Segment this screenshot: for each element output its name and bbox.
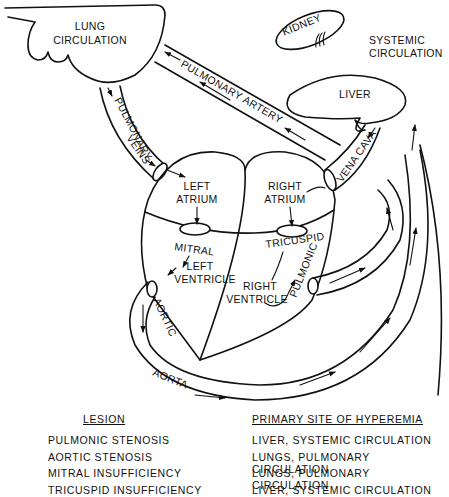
right-atrium-label-2: ATRIUM [264,193,305,205]
table-row: PULMONIC STENOSIS LIVER, SYSTEMIC CIRCUL… [0,434,449,451]
lung-label-2: CIRCULATION [53,34,127,46]
table-row: MITRAL INSUFFICIENCY LUNGS, PULMONARY CI… [0,467,449,484]
kidney: KIDNEY [271,3,349,58]
right-ventricle-label-2: VENTRICLE [226,293,288,305]
lesion-header: LESION [83,413,125,425]
left-ventricle-label-2: VENTRICLE [174,273,236,285]
kidney-label: KIDNEY [280,11,322,37]
left-atrium-label-2: ATRIUM [176,193,217,205]
left-atrium-label-1: LEFT [184,180,211,192]
liver: LIVER [287,75,405,131]
lung-circulation: LUNG CIRCULATION [5,5,165,82]
lesion-cell: AORTIC STENOSIS [48,451,153,463]
liver-label: LIVER [339,88,371,100]
lung-label-1: LUNG [75,20,105,32]
systemic-label-2: CIRCULATION [369,47,443,59]
lesion-cell: MITRAL INSUFFICIENCY [48,467,182,479]
pulmonic-outflow [313,180,403,295]
mitral-label: MITRAL [174,240,216,257]
right-atrium-label-1: RIGHT [268,180,302,192]
lesion-cell: PULMONIC STENOSIS [48,434,170,446]
vena-cava: VENA CAVA [322,125,380,192]
site-cell: LIVER, SYSTEMIC CIRCULATION [252,484,431,496]
pulmonary-veins: PULMONARY VEINS [100,86,170,183]
lesion-cell: TRICUSPID INSUFFICIENCY [48,484,202,496]
aortic-label: AORTIC [151,296,179,339]
systemic-return-arc [420,145,441,395]
left-ventricle-label-1: LEFT [187,260,214,272]
site-cell: LIVER, SYSTEMIC CIRCULATION [252,434,431,446]
table-row: AORTIC STENOSIS LUNGS, PULMONARY CIRCULA… [0,451,449,468]
pulmonary-artery: PULMONARY ARTERY [155,45,340,160]
systemic-label-1: SYSTEMIC [369,34,425,46]
table-row: TRICUSPID INSUFFICIENCY LIVER, SYSTEMIC … [0,484,449,497]
right-ventricle-label-1: RIGHT [243,280,277,292]
pulmonary-artery-label: PULMONARY ARTERY [179,57,285,125]
site-header: PRIMARY SITE OF HYPEREMIA [252,413,423,425]
aorta-label: AORTA [151,366,190,391]
